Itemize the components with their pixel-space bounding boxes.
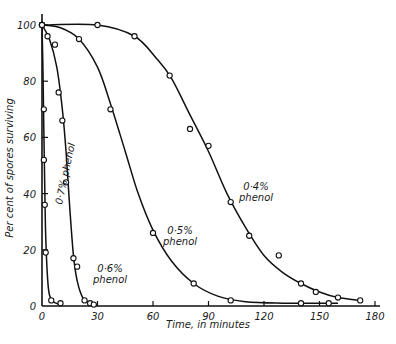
data-point	[358, 298, 363, 303]
data-point	[132, 34, 137, 39]
data-point	[71, 256, 76, 261]
data-point	[42, 202, 47, 207]
label-0-6-phenol-line2: phenol	[92, 274, 127, 285]
data-point	[150, 230, 155, 235]
data-point	[39, 22, 44, 27]
data-point	[45, 34, 50, 39]
data-point	[41, 107, 46, 112]
data-point	[41, 157, 46, 162]
curve-labels: 0·7% phenol0·6%phenol0·5%phenol0·4%pheno…	[53, 142, 273, 285]
data-point	[76, 36, 81, 41]
x-tick-label: 60	[147, 311, 160, 322]
curve-series-2	[42, 25, 338, 303]
label-0-5-phenol: 0·5%	[167, 225, 192, 236]
data-point	[49, 298, 54, 303]
data-point	[52, 42, 57, 47]
data-point	[60, 118, 65, 123]
data-point	[75, 264, 80, 269]
label-0-7-phenol: 0·7% phenol	[53, 142, 77, 206]
x-tick-label: 150	[310, 311, 329, 322]
y-tick-label: 0	[30, 301, 36, 312]
y-axis-label: Per cent of spores surviving	[4, 98, 15, 237]
data-point	[108, 107, 113, 112]
data-point	[335, 295, 340, 300]
y-tick-label: 100	[17, 20, 36, 31]
data-point	[43, 250, 48, 255]
data-point	[228, 199, 233, 204]
data-point	[56, 90, 61, 95]
label-0-4-phenol: 0·4%	[243, 181, 268, 192]
data-point	[313, 289, 318, 294]
data-point	[247, 233, 252, 238]
data-point	[228, 298, 233, 303]
data-point	[82, 298, 87, 303]
x-tick-label: 120	[254, 311, 273, 322]
data-point	[167, 73, 172, 78]
data-point	[276, 253, 281, 258]
label-0-4-phenol-line2: phenol	[238, 192, 273, 203]
data-points	[39, 22, 362, 307]
x-tick-label: 0	[39, 311, 45, 322]
y-tick-label: 40	[23, 189, 36, 200]
curve-series-3	[42, 24, 360, 300]
x-tick-label: 180	[365, 311, 384, 322]
data-point	[298, 281, 303, 286]
data-point	[206, 143, 211, 148]
ticks: 0306090120150180020406080100	[17, 20, 385, 322]
y-tick-label: 80	[23, 76, 36, 87]
curves	[42, 24, 360, 305]
data-point	[91, 302, 96, 307]
y-tick-label: 60	[23, 132, 36, 143]
data-point	[191, 281, 196, 286]
y-tick-label: 20	[23, 245, 36, 256]
data-point	[58, 301, 63, 306]
label-0-6-phenol: 0·6%	[97, 263, 122, 274]
x-tick-label: 30	[91, 311, 104, 322]
curve-series-0	[42, 25, 61, 305]
label-0-5-phenol-line2: phenol	[162, 236, 197, 247]
data-point	[326, 301, 331, 306]
data-point	[95, 22, 100, 27]
chart: 0306090120150180020406080100 0·7% phenol…	[0, 0, 396, 344]
data-point	[187, 126, 192, 131]
data-point	[298, 301, 303, 306]
x-axis-label: Time, in minutes	[166, 319, 250, 330]
